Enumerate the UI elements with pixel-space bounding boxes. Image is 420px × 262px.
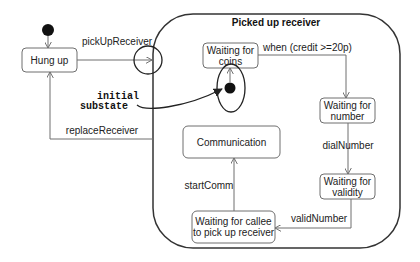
state-machine-diagram: Picked up receiver Hung up pickUpReceive… [0,0,420,262]
annotation-line2: substate [80,101,128,112]
transition-label-valid-number: validNumber [291,213,348,224]
state-label-line1: Waiting for [324,176,372,187]
composite-state-title: Picked up receiver [232,17,320,28]
state-waiting-for-number[interactable]: Waiting for number [320,98,375,123]
transition-label-dial-number: dialNumber [322,140,374,151]
state-label: Communication [197,137,266,148]
state-label: Hung up [31,55,69,66]
state-label-line1: Waiting for callee [195,216,272,227]
state-label-line2: to pick up receiver [193,227,275,238]
state-label-line1: Waiting for [324,100,372,111]
transition-label-start-comm: startComm [185,180,234,191]
initial-substate-dot [225,83,236,94]
initial-pseudostate [42,24,54,36]
state-label-line2: coins [219,56,242,67]
transition-label-pick-up: pickUpReceiver [82,36,153,47]
state-label-line2: validity [332,187,363,198]
state-hung-up[interactable]: Hung up [22,48,77,72]
transition-label-replace-receiver: replaceReceiver [66,125,139,136]
state-waiting-for-callee[interactable]: Waiting for callee to pick up receiver [192,211,275,243]
transition-label-when-credit: when (credit >=20p) [262,42,352,53]
state-label-line1: Waiting for [207,45,255,56]
state-label-line2: number [331,111,366,122]
state-waiting-for-validity[interactable]: Waiting for validity [320,174,375,199]
state-communication[interactable]: Communication [183,126,280,158]
